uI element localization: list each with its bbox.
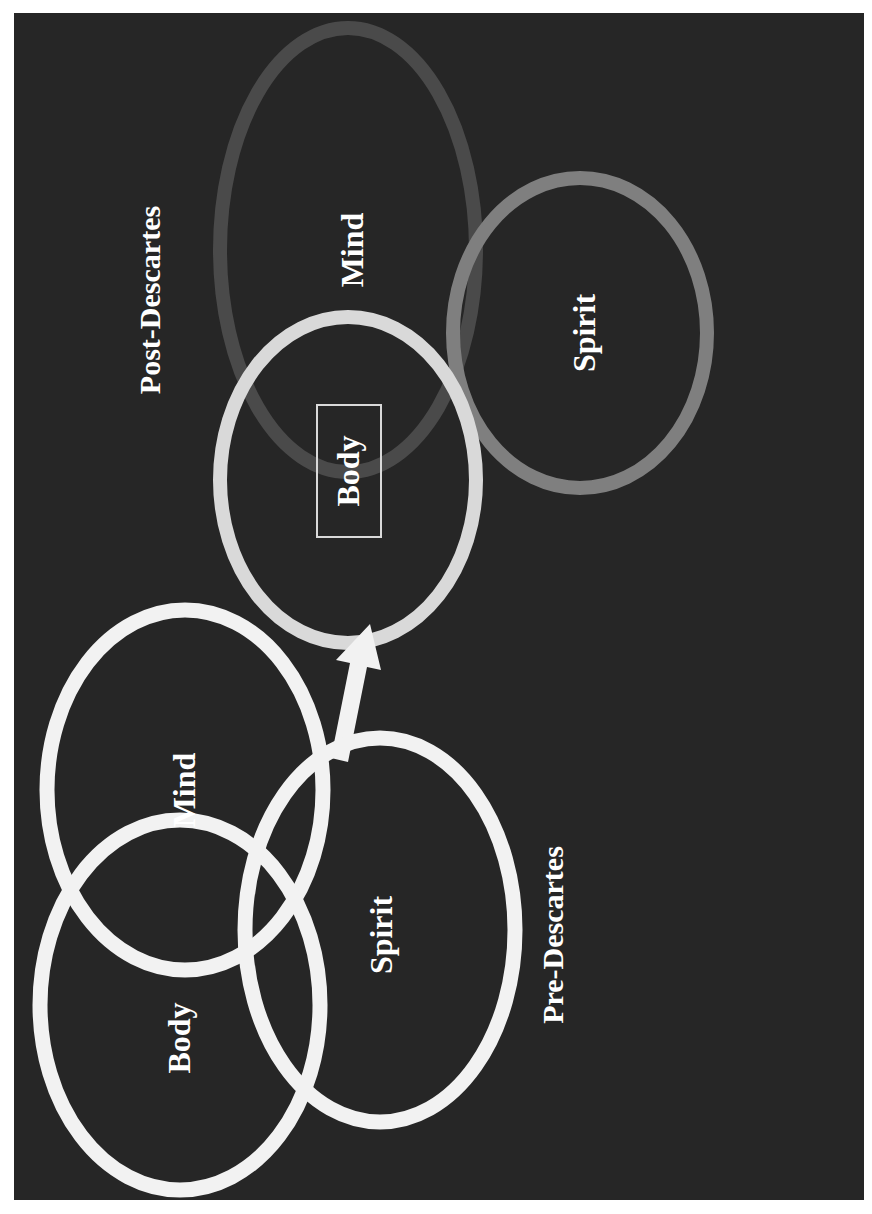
post-spirit-label: Spirit [566,294,602,373]
page: Post-Descartes Mind Spirit Body Mind [0,0,872,1214]
post-body-label: Body [330,435,366,506]
post-descartes-title: Post-Descartes [133,206,166,394]
pre-body-label: Body [161,1002,197,1073]
pre-mind-label: Mind [166,752,202,827]
diagram-canvas: Post-Descartes Mind Spirit Body Mind [0,0,872,1214]
slide-panel [14,13,864,1200]
post-mind-label: Mind [334,212,370,287]
pre-spirit-label: Spirit [363,896,399,975]
pre-descartes-title: Pre-Descartes [536,846,569,1024]
